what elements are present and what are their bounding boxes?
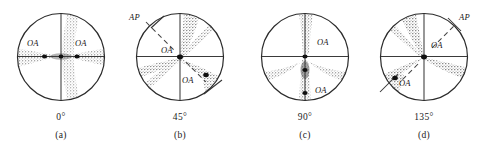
oa-label: OA: [315, 85, 327, 95]
ap-label: AP: [129, 12, 140, 22]
ap-label: AP: [459, 12, 470, 22]
panel-letter-label: (b): [120, 131, 240, 141]
conoscopic-figure-series: OA OA 0° (a): [0, 0, 483, 152]
oa-label: OA: [75, 38, 87, 48]
panel-angle-label: 135°: [364, 113, 483, 123]
panel-letter-label: (c): [245, 131, 365, 141]
panel-d: AP OA OA 135° (d): [364, 0, 483, 152]
panel-c: OA OA 90° (c): [245, 0, 365, 152]
panel-a: OA OA 0° (a): [1, 0, 121, 152]
panel-a-diagram: [1, 0, 121, 120]
melatope-point: [203, 73, 209, 77]
melatope-point: [42, 55, 47, 59]
panel-angle-label: 90°: [245, 113, 365, 123]
oa-label: OA: [27, 38, 39, 48]
melatope-point: [59, 55, 64, 59]
melatope-point: [302, 68, 307, 72]
melatope-point: [302, 54, 307, 58]
panel-angle-label: 45°: [120, 113, 240, 123]
oa-label: OA: [317, 37, 329, 47]
panel-b: AP OA OA 45° (b): [120, 0, 240, 152]
melatope-point: [74, 55, 79, 59]
melatope-point: [302, 91, 307, 95]
panel-letter-label: (a): [1, 131, 121, 141]
oa-label: OA: [161, 45, 173, 55]
melatope-point: [392, 76, 398, 80]
melatope-point: [421, 55, 427, 60]
ap-tick-mark: [151, 16, 164, 28]
isogyre-arm-right: [425, 58, 468, 80]
oa-label: OA: [399, 78, 411, 88]
panel-letter-label: (d): [364, 131, 483, 141]
panel-angle-label: 0°: [1, 113, 121, 123]
oa-label: OA: [182, 75, 194, 85]
melatope-point: [177, 55, 183, 60]
oa-label: OA: [431, 40, 443, 50]
panel-c-diagram: [245, 0, 365, 120]
isogyre-bar-upper: [299, 13, 313, 54]
